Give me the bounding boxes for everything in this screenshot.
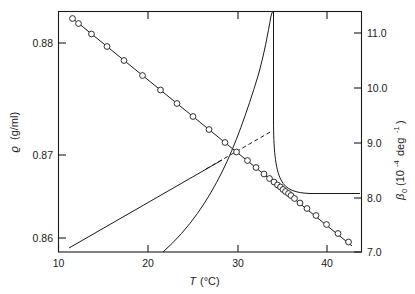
y-axis-right-unit-open: (10 <box>394 170 406 186</box>
y-left-tick-label-0.87: 0.87 <box>33 149 54 161</box>
y-axis-left-title-symbol: ϱ <box>8 145 20 152</box>
chart-canvas: 10 20 30 40 0.88 0.87 0.86 11.0 10.0 9.0… <box>0 0 415 294</box>
x-axis-title-unit: (°C) <box>200 275 220 287</box>
y-right-tick-label-11.0: 11.0 <box>367 27 387 39</box>
x-axis-title: T (°C) <box>189 275 219 287</box>
y-axis-right-unit-exp2: -1 <box>392 126 401 133</box>
y-axis-left-title: ϱ (g/ml) <box>8 112 20 152</box>
y-axis-right-unit-mid: deg <box>394 138 406 156</box>
x-tick-label-2: 30 <box>232 257 244 269</box>
x-axis-title-symbol: T <box>189 275 197 287</box>
beta0-transition-curve <box>163 12 273 253</box>
y-axis-left-title-unit: (g/ml) <box>8 112 20 140</box>
x-axis-ticks <box>59 245 328 252</box>
y-axis-right-title-subscript: 0 <box>400 189 409 193</box>
y-right-tick-label-8.0: 8.0 <box>367 192 382 204</box>
x-tick-label-1: 20 <box>142 257 154 269</box>
x-tick-label-0: 10 <box>53 257 65 269</box>
y-left-tick-label-0.88: 0.88 <box>33 37 54 49</box>
x-tick-label-3: 40 <box>321 257 333 269</box>
x-axis-ticks-top <box>148 12 327 20</box>
y-axis-right-title: β 0 (10 -4 deg -1 ) <box>392 120 409 201</box>
y-axis-right-unit-close: ) <box>394 120 406 124</box>
y-right-tick-label-10.0: 10.0 <box>367 82 388 94</box>
y-axis-right-unit-exp1: -4 <box>392 160 401 167</box>
y-axis-left-ticks <box>59 43 67 238</box>
y-axis-right-ticks <box>354 33 362 252</box>
beta0-baseline-line <box>69 160 222 248</box>
y-right-tick-label-9.0: 9.0 <box>367 137 382 149</box>
density-line <box>72 18 352 246</box>
y-left-tick-label-0.86: 0.86 <box>33 232 54 244</box>
y-right-tick-label-7.0: 7.0 <box>367 246 382 258</box>
figure-container: 10 20 30 40 0.88 0.87 0.86 11.0 10.0 9.0… <box>0 0 415 294</box>
y-axis-right-title-symbol: β <box>394 193 406 201</box>
beta0-peak-descent <box>274 12 361 194</box>
